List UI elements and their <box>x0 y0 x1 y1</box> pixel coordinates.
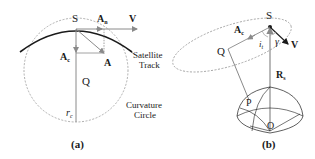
panel-b: S Ac Q it γ V Rs P O (b) <box>167 7 303 151</box>
caption-b: (b) <box>262 138 276 151</box>
label-curvature-circle-2: Circle <box>134 110 156 120</box>
label-Ac-a: Ac <box>60 51 70 63</box>
label-S-a: S <box>72 12 78 24</box>
label-rc-a: rc <box>66 107 73 119</box>
label-curvature-circle-1: Curvature <box>126 100 162 110</box>
diagram-canvas: S An V Ac A Q rc Satellite Track Curvatu… <box>0 0 315 159</box>
label-V-b: V <box>291 39 299 50</box>
label-it-b: it <box>259 39 264 50</box>
label-Rs-b: Rs <box>276 69 286 81</box>
label-O-b: O <box>267 120 274 131</box>
angle-it-arc <box>262 31 268 37</box>
label-Q-a: Q <box>82 75 90 87</box>
label-Ac-b: Ac <box>234 24 244 36</box>
caption-a: (a) <box>71 138 84 151</box>
label-Q-b: Q <box>217 45 225 57</box>
label-satellite-track-2: Track <box>139 60 160 70</box>
panel-a: S An V Ac A Q rc Satellite Track Curvatu… <box>20 12 163 151</box>
hemisphere-axis-right <box>270 114 300 131</box>
q-to-p-line <box>228 49 249 100</box>
label-P-b: P <box>246 97 252 108</box>
label-A-a: A <box>104 57 112 68</box>
label-V-a: V <box>129 13 137 24</box>
label-satellite-track-1: Satellite <box>133 50 163 60</box>
label-An-a: An <box>97 13 108 25</box>
ac-arrow-b <box>248 35 255 39</box>
label-S-b: S <box>266 9 272 21</box>
label-gamma-b: γ <box>275 36 280 47</box>
velocity-vector-b <box>270 27 288 44</box>
